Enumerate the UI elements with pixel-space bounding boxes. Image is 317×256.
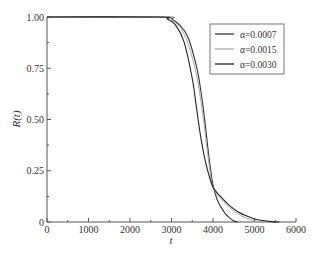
y-tick-label: 0.50 [27,114,45,125]
y-tick-label: 0 [39,217,44,228]
series-line [47,17,238,222]
y-axis-label: R(t) [10,110,23,128]
x-tick-label: 5000 [245,224,265,235]
legend-label: α=0.0030 [240,60,277,70]
legend-label: α=0.0015 [240,45,277,55]
reliability-chart: 010002000300040005000600000.250.500.751.… [0,0,317,256]
y-tick-label: 0.25 [27,165,45,176]
x-tick-label: 1000 [79,224,99,235]
x-tick-label: 0 [45,224,50,235]
x-axis-label: t [169,234,173,246]
x-tick-label: 6000 [286,224,306,235]
x-tick-label: 2000 [120,224,140,235]
legend: α=0.0007α=0.0015α=0.0030 [210,24,284,74]
legend-label: α=0.0007 [240,30,277,40]
y-tick-label: 1.00 [27,12,45,23]
y-tick-label: 0.75 [27,63,45,74]
x-tick-label: 4000 [203,224,223,235]
